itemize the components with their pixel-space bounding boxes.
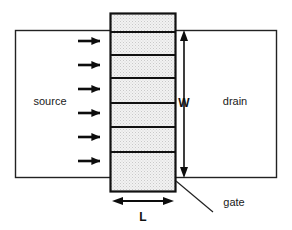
figure-container: source drain gate W L	[0, 0, 292, 230]
length-dimension-arrow	[112, 197, 174, 205]
source-label: source	[33, 95, 66, 107]
mosfet-diagram: source drain gate W L	[0, 0, 292, 230]
gate-label: gate	[223, 196, 244, 208]
drain-label: drain	[223, 95, 247, 107]
gate-leader-line	[176, 181, 213, 212]
length-dimension-label: L	[139, 210, 146, 224]
width-dimension-label: W	[178, 96, 190, 110]
